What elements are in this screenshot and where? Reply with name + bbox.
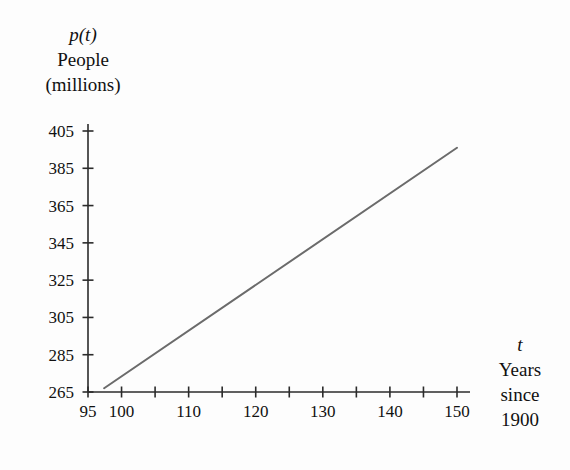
tick-marks — [83, 131, 458, 398]
x-axis-title-variable: t — [462, 332, 570, 357]
y-axis-title: p(t) People (millions) — [18, 22, 148, 97]
axes — [88, 124, 470, 392]
x-axis-title-line2: Years — [462, 357, 570, 382]
y-tick-label: 345 — [28, 235, 74, 252]
data-line — [104, 148, 457, 388]
y-tick-label: 285 — [28, 347, 74, 364]
x-tick-label: 150 — [434, 403, 480, 420]
x-tick-label: 110 — [166, 403, 212, 420]
y-tick-label: 385 — [28, 160, 74, 177]
y-axis-title-line2: People — [18, 47, 148, 72]
y-axis-title-line3: (millions) — [18, 72, 148, 97]
y-tick-label: 265 — [28, 384, 74, 401]
y-tick-label: 305 — [28, 309, 74, 326]
chart-figure: p(t) People (millions) t Years since 190… — [0, 0, 570, 470]
x-tick-label: 100 — [99, 403, 145, 420]
data-series — [104, 148, 457, 388]
x-tick-label: 120 — [233, 403, 279, 420]
x-tick-label: 140 — [367, 403, 413, 420]
y-axis-title-variable: p(t) — [18, 22, 148, 47]
y-tick-label: 405 — [28, 123, 74, 140]
y-tick-label: 365 — [28, 198, 74, 215]
y-tick-label: 325 — [28, 272, 74, 289]
x-tick-label: 130 — [300, 403, 346, 420]
